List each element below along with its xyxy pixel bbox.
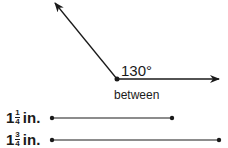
- segment-1: [50, 116, 174, 120]
- fraction: 3 4: [15, 131, 19, 148]
- segment-1-length-label: 1 1 4 in.: [6, 109, 40, 126]
- whole-number: 1: [6, 109, 14, 126]
- angle-caption: between: [114, 88, 159, 102]
- unit: in.: [23, 131, 41, 148]
- segment-2: [50, 138, 221, 142]
- segment-2-length-label: 1 3 4 in.: [6, 131, 40, 148]
- angle-measure-label: 130°: [121, 62, 152, 79]
- whole-number: 1: [6, 131, 14, 148]
- vertex-point: [115, 77, 120, 82]
- fraction: 1 4: [15, 109, 19, 126]
- ray-upper-left: [55, 3, 117, 79]
- unit: in.: [23, 109, 41, 126]
